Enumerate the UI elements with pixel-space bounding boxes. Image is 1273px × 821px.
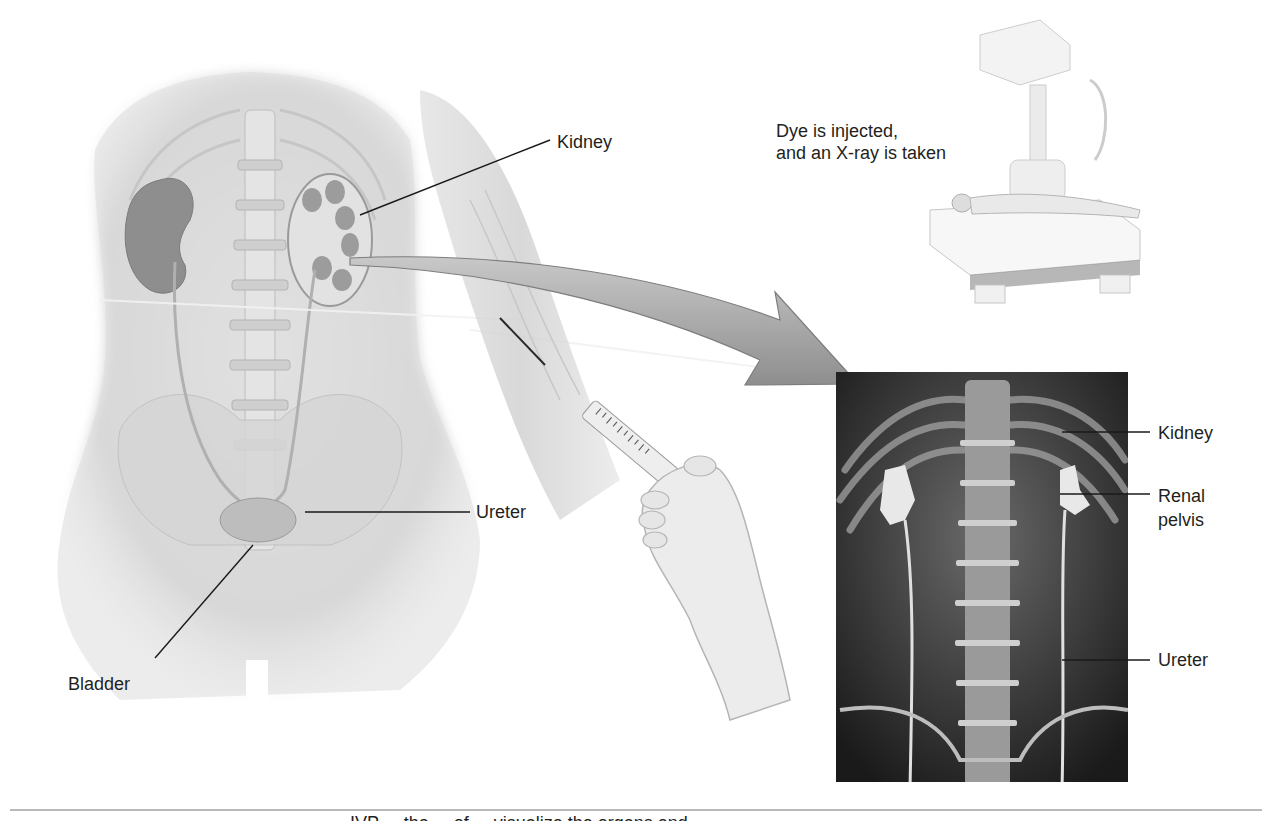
xray-label-kidney: Kidney [1158,423,1213,444]
instruction-caption: Dye is injected, and an X-ray is taken [776,120,946,164]
renal-pelvis-line-2: pelvis [1158,508,1205,532]
caption-divider [10,809,1262,811]
syringe-hand [581,400,790,720]
renal-pelvis-line-1: Renal [1158,484,1205,508]
instruction-line-2: and an X-ray is taken [776,142,946,164]
flow-arrow [350,257,858,385]
ivp-illustration [0,0,1273,821]
label-kidney: Kidney [557,132,612,153]
figure-caption-truncated: ... IVP ... the ... of ... visualize the… [330,812,688,821]
bladder [220,498,296,542]
label-bladder: Bladder [68,674,130,695]
xray-label-ureter: Ureter [1158,650,1208,671]
xray-machine [930,20,1140,303]
xray-label-renal-pelvis: Renal pelvis [1158,484,1205,532]
xray-image [836,372,1128,790]
label-ureter: Ureter [476,502,526,523]
kidney-right-section [288,174,372,306]
instruction-line-1: Dye is injected, [776,120,946,142]
